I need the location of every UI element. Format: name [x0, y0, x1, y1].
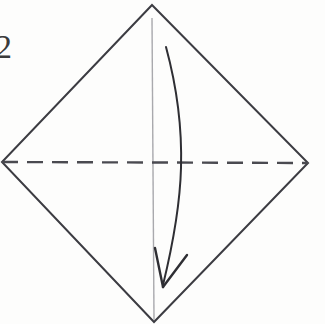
arrow-barb-left [155, 248, 163, 287]
step-number-label: 2 [0, 30, 12, 64]
vertical-center-crease-line [152, 18, 154, 320]
origami-figure: 2 [0, 0, 325, 324]
fold-arrow-shaft [163, 47, 181, 285]
horizontal-fold-dashed-line [2, 162, 308, 163]
origami-diagram-canvas [0, 0, 325, 324]
